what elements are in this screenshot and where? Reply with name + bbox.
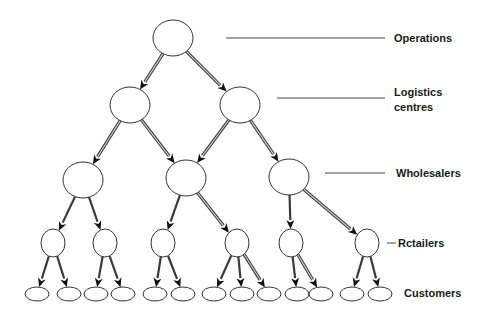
- edge-r5-c10: [291, 257, 299, 287]
- edge-r2-c3: [95, 257, 103, 287]
- arrowhead-icon: [38, 277, 46, 287]
- node-retailers-r5: [279, 229, 303, 257]
- edge-w3-r5: [286, 195, 294, 229]
- label-logistics-line2: centres: [394, 100, 442, 115]
- edge-r1-c1: [38, 256, 49, 287]
- node-customers-c11: [309, 287, 333, 301]
- edge-r6-c12: [353, 256, 363, 287]
- node-logistics-lc1: [110, 87, 150, 123]
- edge-r4-c8: [236, 257, 244, 287]
- edge-w2-r3: [167, 195, 180, 230]
- label-operations: Operations: [394, 31, 452, 46]
- arrowhead-icon: [291, 278, 299, 287]
- label-customers-text: Customers: [404, 286, 461, 301]
- label-wholesalers: Wholesalers: [396, 166, 461, 181]
- arrowhead-icon: [94, 220, 102, 230]
- node-customers-c10: [285, 287, 309, 301]
- label-customers: Customers: [404, 286, 461, 301]
- arrowhead-icon: [286, 220, 294, 229]
- label-retailers: Rctailers: [398, 236, 444, 251]
- arrowhead-icon: [95, 277, 103, 287]
- edge-r3-c6: [168, 256, 181, 287]
- edge-op-lc2: [186, 51, 226, 91]
- node-retailers-r1: [41, 229, 65, 257]
- edge-w1-r2: [89, 197, 101, 230]
- node-retailers-r6: [355, 229, 379, 257]
- node-retailers-r2: [93, 229, 117, 257]
- level-leader-lines: [226, 38, 396, 243]
- edge-op-lc1: [140, 54, 163, 90]
- edge-r2-c4: [110, 256, 122, 287]
- edge-w3-r6: [304, 189, 358, 234]
- edge-lc2-w3: [250, 120, 278, 161]
- node-customers-c2: [57, 287, 81, 301]
- node-customers-c3: [84, 287, 108, 301]
- diagram-nodes: [25, 20, 392, 301]
- edge-lc1-w2: [141, 120, 174, 163]
- node-customers-c6: [171, 287, 195, 301]
- edge-w1-r1: [59, 197, 75, 231]
- label-retailers-text: Rctailers: [398, 236, 444, 251]
- edge-w2-r4: [198, 193, 229, 233]
- arrowhead-icon: [236, 278, 244, 287]
- arrowhead-icon: [114, 277, 122, 287]
- label-logistics-line1: Logistics: [394, 85, 442, 100]
- node-wholesalers-w1: [63, 162, 103, 198]
- node-customers-c1: [25, 287, 49, 301]
- edge-lc2-w2: [197, 120, 229, 163]
- edge-r5-c11: [298, 255, 317, 288]
- node-operations-op: [153, 20, 193, 56]
- label-logistics-centres: Logistics centres: [394, 85, 442, 115]
- node-customers-c5: [143, 287, 167, 301]
- edge-r4-c7: [217, 255, 231, 287]
- arrowhead-icon: [154, 278, 162, 288]
- edge-r1-c2: [57, 256, 68, 287]
- node-logistics-lc2: [220, 87, 260, 123]
- arrowhead-icon: [353, 277, 361, 287]
- edge-r3-c5: [154, 257, 162, 287]
- arrowhead-icon: [173, 277, 180, 287]
- distribution-hierarchy-diagram: [0, 0, 486, 320]
- label-operations-text: Operations: [394, 31, 452, 46]
- node-customers-c4: [111, 287, 135, 301]
- edge-r6-c13: [370, 256, 379, 287]
- node-wholesalers-w3: [269, 159, 309, 195]
- arrowhead-icon: [60, 277, 68, 287]
- edge-r4-c9: [244, 254, 265, 287]
- node-customers-c12: [340, 287, 364, 301]
- label-wholesalers-text: Wholesalers: [396, 166, 461, 181]
- arrowhead-icon: [372, 277, 380, 287]
- node-customers-c8: [230, 287, 254, 301]
- node-wholesalers-w2: [166, 160, 206, 196]
- node-retailers-r4: [225, 229, 249, 257]
- edge-lc1-w1: [93, 121, 120, 165]
- node-customers-c13: [368, 287, 392, 301]
- node-retailers-r3: [151, 229, 175, 257]
- node-customers-c7: [202, 287, 226, 301]
- arrowhead-icon: [167, 220, 175, 230]
- node-customers-c9: [257, 287, 281, 301]
